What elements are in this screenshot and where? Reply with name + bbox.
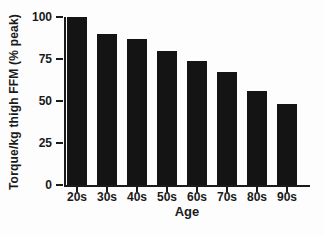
x-tick-label-50s: 50s (151, 191, 183, 204)
x-tick-label-60s: 60s (181, 191, 213, 204)
y-tick-label-50: 50 (0, 94, 52, 108)
y-tick-label-0: 0 (0, 178, 52, 192)
bar-50s (157, 51, 177, 185)
x-tick-label-40s: 40s (121, 191, 153, 204)
bar-80s (247, 91, 267, 185)
y-tick-mark-50 (56, 100, 63, 102)
y-tick-label-100: 100 (0, 10, 52, 24)
y-tick-mark-0 (56, 184, 63, 186)
x-axis-title: Age (155, 204, 219, 219)
x-tick-label-20s: 20s (61, 191, 93, 204)
x-tick-label-30s: 30s (91, 191, 123, 204)
bar-20s (67, 17, 87, 185)
x-tick-label-70s: 70s (211, 191, 243, 204)
y-tick-label-75: 75 (0, 52, 52, 66)
bar-30s (97, 34, 117, 185)
y-tick-mark-75 (56, 58, 63, 60)
bar-chart-figure: Torque/kg thigh FFM (% peak) Age 0255075… (0, 0, 324, 236)
x-tick-label-90s: 90s (271, 191, 303, 204)
bar-40s (127, 39, 147, 185)
y-tick-label-25: 25 (0, 136, 52, 150)
bar-90s (277, 104, 297, 185)
bar-70s (217, 72, 237, 185)
y-tick-mark-100 (56, 16, 63, 18)
x-tick-label-80s: 80s (241, 191, 273, 204)
plot-area (64, 17, 310, 187)
y-tick-mark-25 (56, 142, 63, 144)
bar-60s (187, 61, 207, 185)
